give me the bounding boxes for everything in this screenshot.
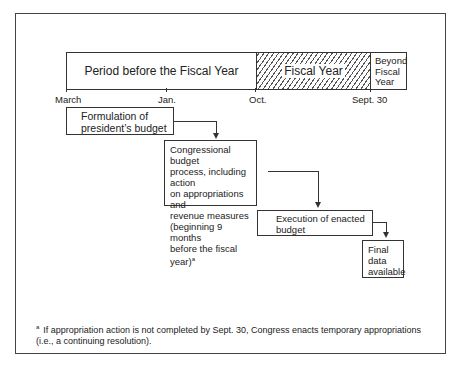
tick-jan [166, 88, 167, 92]
step-line: before the fiscal year)a [170, 243, 256, 267]
fiscal-year-label: Fiscal Year [282, 64, 345, 78]
fiscal-year-segment: Fiscal Year [256, 53, 371, 89]
step-congressional-box: Congressional budget process, including … [164, 140, 257, 206]
period-before-fiscal-year: Period before the Fiscal Year [67, 53, 256, 89]
beyond-fiscal-year-segment: Beyond Fiscal Year [371, 53, 406, 89]
step-line: on appropriations and [170, 188, 256, 210]
step-line: revenue measures [170, 210, 256, 221]
footnote-text: If appropriation action is not completed… [36, 325, 421, 346]
tick-label-oct: Oct. [249, 94, 266, 105]
step-line-text: before the fiscal year) [170, 243, 237, 267]
step-line: Congressional budget [170, 144, 256, 166]
arrow-down-icon [383, 232, 389, 238]
step-final-data-box: Final data available [362, 240, 404, 278]
tick-label-jan: Jan. [158, 94, 176, 105]
step-line: budget [276, 224, 372, 235]
footnote: aIf appropriation action is not complete… [36, 322, 436, 347]
footnote-mark: a [192, 256, 195, 262]
arrow-down-icon [315, 202, 321, 208]
step-formulation-box: Formulation of president’s budget [66, 107, 174, 135]
step-line: Execution of enacted [276, 213, 372, 224]
tick-label-march: March [55, 94, 81, 105]
tick-oct [255, 88, 256, 92]
step-line: president’s budget [81, 122, 173, 134]
beyond-line: Year [375, 77, 406, 88]
tick-march [66, 88, 67, 92]
connector-line [373, 222, 387, 223]
step-line: process, including action [170, 166, 256, 188]
step-line: (beginning 9 months [170, 221, 256, 243]
step-line: Formulation of [81, 110, 173, 122]
step-line: Final [368, 244, 403, 255]
step-line: available [368, 266, 403, 277]
connector-line [268, 171, 319, 172]
beyond-line: Beyond [375, 56, 406, 67]
step-execution-box: Execution of enacted budget [257, 210, 373, 236]
arrow-down-icon [213, 133, 219, 139]
tick-sept30 [370, 88, 371, 92]
footnote-mark: a [36, 324, 39, 330]
timeline-bar: Period before the Fiscal Year Fiscal Yea… [66, 52, 407, 90]
connector-line [174, 121, 217, 122]
step-line: data [368, 255, 403, 266]
connector-line [318, 171, 319, 203]
tick-label-sept30: Sept. 30 [352, 94, 387, 105]
